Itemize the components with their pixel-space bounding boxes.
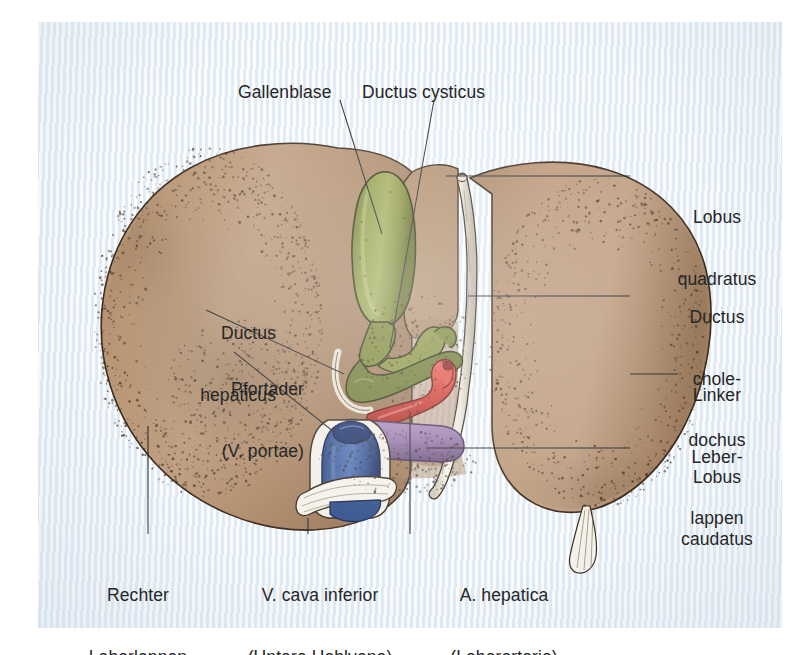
label-linker-leberlappen-line1: Linker <box>652 385 782 406</box>
label-vena-cava-inferior-line2: (Untere Hohlvene) <box>222 647 418 655</box>
label-a-hepatica-line2: (Leberarterie) <box>420 647 588 655</box>
label-lobus-quadratus-line1: Lobus <box>652 207 782 228</box>
label-ductus-choledochus-line1: Ductus <box>652 307 782 328</box>
label-lobus-caudatus-line2: caudatus <box>652 529 782 550</box>
label-lobus-caudatus-line1: Lobus <box>652 467 782 488</box>
label-pfortader: Pfortader (V. portae) <box>126 338 304 502</box>
label-lobus-caudatus: Lobus caudatus <box>652 426 782 590</box>
label-ductus-cysticus: Ductus cysticus <box>362 82 485 103</box>
label-pfortader-line1: Pfortader <box>126 379 304 400</box>
label-a-hepatica: A. hepatica (Leberarterie) <box>420 544 588 655</box>
label-vena-cava-inferior: V. cava inferior (Untere Hohlvene) <box>222 544 418 655</box>
label-a-hepatica-line1: A. hepatica <box>420 585 588 606</box>
figure-page: Gallenblase Ductus cysticus Lobus quadra… <box>0 0 806 655</box>
label-gallenblase: Gallenblase <box>238 82 332 103</box>
label-vena-cava-inferior-line1: V. cava inferior <box>222 585 418 606</box>
label-rechter-leberlappen-line1: Rechter <box>58 585 218 606</box>
label-rechter-leberlappen: Rechter Leberlappen <box>58 544 218 655</box>
label-pfortader-line2: (V. portae) <box>126 441 304 462</box>
label-rechter-leberlappen-line2: Leberlappen <box>58 647 218 655</box>
